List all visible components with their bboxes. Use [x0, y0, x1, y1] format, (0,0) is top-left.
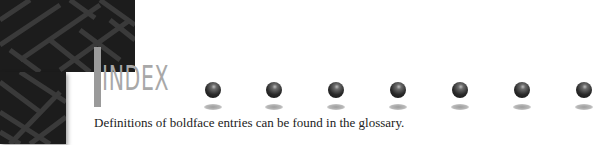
sphere-icon [266, 82, 282, 98]
sphere-icon [514, 82, 530, 98]
sphere-shadow [451, 104, 469, 110]
sphere-icon [205, 82, 221, 98]
page-title: INDEX [102, 62, 169, 95]
sphere-icon [452, 82, 468, 98]
title-accent-bar [94, 47, 101, 107]
sphere-shadow [204, 104, 222, 110]
sphere-shadow [513, 104, 531, 110]
sphere-icon [390, 82, 406, 98]
sphere-icon [328, 82, 344, 98]
sphere-icon [576, 82, 592, 98]
sphere-shadow [575, 104, 593, 110]
sphere-shadow [389, 104, 407, 110]
sphere-shadow [265, 104, 283, 110]
maze-decoration-lower [0, 72, 66, 144]
glossary-note: Definitions of boldface entries can be f… [94, 115, 404, 131]
sphere-shadow [327, 104, 345, 110]
